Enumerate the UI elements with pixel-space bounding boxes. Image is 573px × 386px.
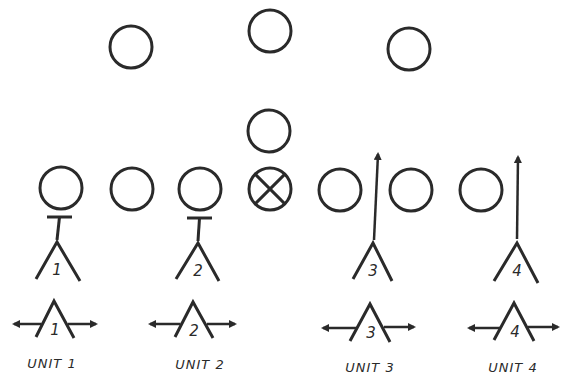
play-diagram: 1234 1UNIT 12UNIT 23UNIT 34UNIT 4 <box>0 0 573 386</box>
route-arrow-icon <box>374 154 378 240</box>
lineman-circle <box>319 169 361 211</box>
unit-4-legend: 4UNIT 4 <box>469 303 558 375</box>
blocker-number: 1 <box>52 261 62 279</box>
defender-circles <box>110 10 430 152</box>
defender-circle <box>248 110 290 152</box>
line-circles <box>40 167 502 211</box>
blocker-4: 4 <box>494 157 538 283</box>
defender-circle <box>388 28 430 70</box>
defender-circle <box>249 10 291 52</box>
diagram-canvas: 1234 1UNIT 12UNIT 23UNIT 34UNIT 4 <box>0 0 573 386</box>
lineman-circle <box>111 168 153 210</box>
unit-1-legend: 1UNIT 1 <box>14 301 96 371</box>
unit-2-legend: 2UNIT 2 <box>150 302 235 372</box>
blocker-chevrons: 1234 <box>36 154 538 283</box>
unit-number: 1 <box>50 321 60 339</box>
blocker-3: 3 <box>353 154 392 281</box>
unit-label: UNIT 3 <box>345 360 394 375</box>
lineman-circle <box>40 167 82 209</box>
unit-label: UNIT 2 <box>175 357 224 372</box>
unit-3-legend: 3UNIT 3 <box>323 304 414 375</box>
lineman-circle <box>460 169 502 211</box>
defender-circle <box>110 26 152 68</box>
blocker-number: 2 <box>193 262 203 280</box>
blocker-2: 2 <box>176 218 219 281</box>
unit-number: 3 <box>366 324 376 342</box>
unit-number: 2 <box>189 322 199 340</box>
blocker-1: 1 <box>36 217 80 281</box>
lineman-circle <box>390 169 432 211</box>
center-marked-circle <box>249 168 291 210</box>
unit-label: UNIT 1 <box>27 356 76 371</box>
route-arrow-icon <box>517 157 518 239</box>
unit-legend: 1UNIT 12UNIT 23UNIT 34UNIT 4 <box>14 301 558 375</box>
blocker-number: 3 <box>368 262 378 280</box>
blocker-number: 4 <box>512 262 522 280</box>
unit-number: 4 <box>510 323 520 341</box>
lineman-circle <box>179 168 221 210</box>
unit-label: UNIT 4 <box>488 360 537 375</box>
